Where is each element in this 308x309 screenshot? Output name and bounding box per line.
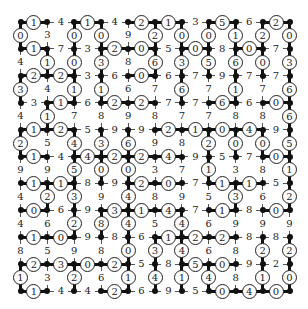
edge-label: 5 [81, 123, 95, 137]
edge-label: 1 [53, 95, 68, 110]
edge-label: 4 [174, 243, 189, 258]
edge-label: 2 [26, 257, 41, 272]
grid-node [125, 19, 131, 25]
grid-node [125, 100, 131, 106]
grid-node [18, 19, 24, 25]
grid-node [44, 100, 50, 106]
edge-label: 1 [201, 162, 216, 177]
edge-label: 2 [161, 122, 176, 137]
grid-node [179, 180, 185, 186]
grid-node [44, 180, 50, 186]
grid-node [179, 207, 185, 213]
edge-label: 2 [134, 149, 149, 164]
edge-label: 2 [107, 257, 122, 272]
grid-node [18, 73, 24, 79]
edge-label: 0 [174, 28, 189, 43]
edge-label: 6 [94, 271, 108, 285]
edge-label: 0 [282, 28, 297, 43]
grid-node [18, 100, 24, 106]
edge-label: 1 [242, 176, 257, 191]
grid-node [44, 127, 50, 133]
grid-node [152, 234, 158, 240]
edge-label: 7 [148, 82, 162, 96]
edge-label: 1 [161, 230, 176, 245]
edge-label: 6 [148, 55, 163, 70]
edge-label: 0 [53, 230, 68, 245]
grid-node [125, 154, 131, 160]
edge-label: 9 [148, 136, 162, 150]
grid-node [18, 207, 24, 213]
edge-label: 5 [201, 55, 216, 70]
grid-node [18, 127, 24, 133]
edge-label: 1 [255, 270, 270, 285]
grid-node [233, 127, 239, 133]
edge-label: 2 [148, 28, 163, 43]
edge-label: 8 [81, 176, 95, 190]
edge-label: 8 [108, 230, 122, 244]
edge-label: 2 [282, 243, 297, 258]
grid-node [233, 46, 239, 52]
grid-node [287, 288, 293, 294]
edge-label: 6 [202, 244, 216, 258]
edge-label: 0 [215, 284, 230, 299]
edge-label: 0 [67, 55, 82, 70]
grid-node [98, 261, 104, 267]
grid-node [206, 207, 212, 213]
grid-node [98, 19, 104, 25]
grid-node [98, 127, 104, 133]
edge-label: 1 [26, 176, 41, 191]
edge-label: 4 [54, 15, 68, 29]
edge-label: 6 [215, 95, 230, 110]
edge-label: 3 [174, 55, 189, 70]
edge-label: 0 [121, 162, 136, 177]
edge-label: 7 [242, 150, 256, 164]
edge-label: 1 [188, 122, 203, 137]
edge-label: 2 [134, 15, 149, 30]
edge-label: 4 [14, 55, 28, 69]
edge-label: 8 [256, 109, 270, 123]
grid-node [179, 73, 185, 79]
grid-node [152, 46, 158, 52]
edge-label: 6 [54, 203, 68, 217]
grid-node [71, 234, 77, 240]
edge-label: 0 [67, 28, 82, 43]
grid-node [125, 261, 131, 267]
edge-label: 1 [26, 41, 41, 56]
grid-node [260, 207, 266, 213]
grid-node [98, 73, 104, 79]
edge-label: 5 [202, 190, 216, 204]
grid-node [98, 100, 104, 106]
grid-node [71, 261, 77, 267]
edge-label: 2 [13, 136, 28, 151]
edge-label: 3 [40, 28, 54, 42]
grid-node [152, 73, 158, 79]
edge-label: 2 [269, 257, 283, 271]
grid-node [287, 19, 293, 25]
grid-node [233, 180, 239, 186]
edge-label: 4 [54, 284, 68, 298]
edge-label: 9 [14, 163, 28, 177]
edge-label: 2 [67, 270, 82, 285]
grid-node [125, 207, 131, 213]
grid-node [152, 261, 158, 267]
edge-label: 1 [40, 55, 55, 70]
grid-node [260, 100, 266, 106]
edge-label: 2 [107, 284, 122, 299]
edge-label: 6 [135, 230, 149, 244]
grid-node [152, 288, 158, 294]
edge-label: 7 [269, 42, 283, 56]
edge-label: 2 [255, 28, 270, 43]
edge-label: 2 [188, 230, 203, 245]
edge-label: 3 [81, 69, 95, 83]
grid-node [44, 288, 50, 294]
edge-label: 3 [229, 163, 243, 177]
edge-label: 7 [202, 109, 216, 123]
edge-label: 2 [107, 149, 122, 164]
edge-label: 5 [40, 136, 54, 150]
edge-label: 9 [81, 203, 95, 217]
edge-label: 8 [229, 271, 243, 285]
edge-label: 7 [188, 69, 202, 83]
edge-label: 2 [215, 230, 230, 245]
edge-label: 5 [269, 176, 283, 190]
edge-label: 5 [40, 244, 54, 258]
